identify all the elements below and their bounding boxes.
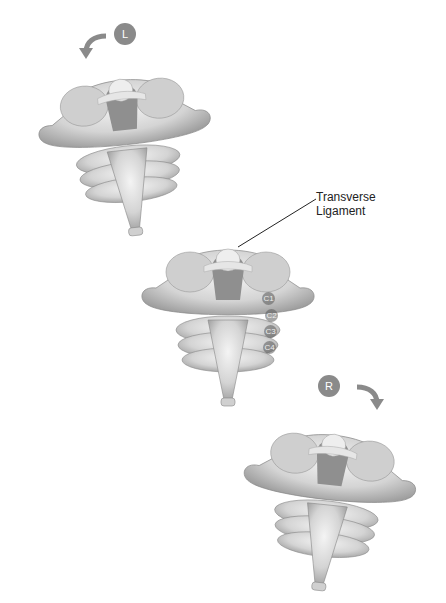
right-rotation-badge: R [318,375,340,397]
vertebrae-right-rotation [222,395,437,595]
leader-line [230,195,320,255]
c4-label: C4 [263,341,276,354]
transverse-ligament-label: Transverse Ligament [316,190,376,218]
c2-label: C2 [265,309,278,322]
label-line-1: Transverse [316,190,376,204]
clockwise-arrow-icon [355,383,385,411]
counter-clockwise-arrow-icon [78,32,108,60]
label-line-2: Ligament [316,204,376,218]
c3-label: C3 [264,325,277,338]
left-rotation-badge: L [114,23,136,45]
c1-label: C1 [262,292,275,305]
